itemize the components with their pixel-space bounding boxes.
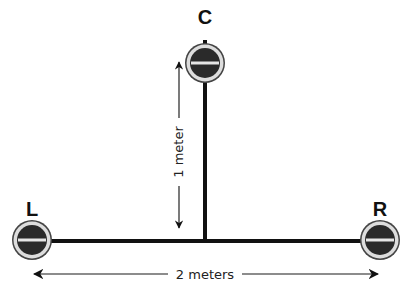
mic-center xyxy=(185,43,225,83)
mic-label-l: L xyxy=(26,198,38,220)
mic-left xyxy=(12,220,52,260)
mic-label-c: C xyxy=(198,6,212,28)
mic-right xyxy=(360,220,400,260)
horizontal-dimension-label: 2 meters xyxy=(176,267,235,282)
mic-label-r: R xyxy=(373,198,388,220)
vertical-dimension-label: 1 meter xyxy=(171,126,186,178)
mic-layout-diagram: C L R 1 meter 2 meters xyxy=(0,0,417,290)
